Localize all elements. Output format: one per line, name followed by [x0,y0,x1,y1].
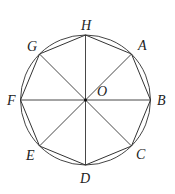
vertex-label-a: A [137,38,147,53]
center-point [84,98,87,101]
vertex-label-f: F [6,93,16,108]
vertex-label-b: B [157,93,166,108]
vertex-label-d: D [79,171,90,186]
center-label: O [97,84,107,99]
vertex-labels: ABCDEFGH [6,18,166,186]
vertex-label-c: C [136,147,146,162]
vertex-label-e: E [25,148,35,163]
vertex-label-g: G [27,39,37,54]
vertex-label-h: H [80,18,92,33]
octagon-diagram: ABCDEFGH O [0,0,175,194]
diagram-canvas: ABCDEFGH O [0,0,175,194]
